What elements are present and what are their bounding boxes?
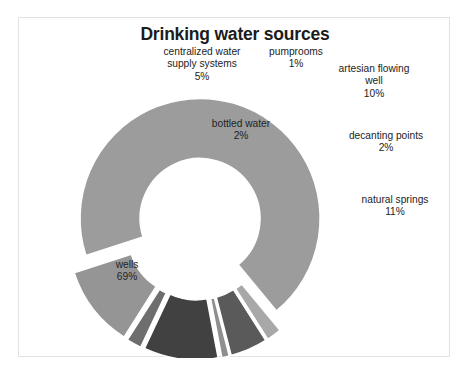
label-decanting-points: decanting points 2% bbox=[331, 130, 441, 155]
chart-title: Drinking water sources bbox=[19, 24, 451, 45]
label-pumprooms-line1: pumprooms bbox=[256, 46, 336, 58]
label-wells-line1: wells bbox=[97, 259, 157, 271]
label-artesian-flowing-well: artesian flowing well 10% bbox=[319, 63, 429, 100]
label-springs-value: 11% bbox=[343, 206, 447, 218]
label-springs-line1: natural springs bbox=[343, 194, 447, 206]
label-bottled-value: 2% bbox=[195, 130, 287, 142]
label-natural-springs: natural springs 11% bbox=[343, 194, 447, 219]
label-decanting-value: 2% bbox=[331, 142, 441, 154]
label-centralized-line2: supply systems bbox=[147, 58, 257, 70]
label-artesian-value: 10% bbox=[319, 88, 429, 100]
label-artesian-line1: artesian flowing bbox=[319, 63, 429, 75]
label-centralized-line1: centralized water bbox=[147, 46, 257, 58]
label-bottled-water: bottled water 2% bbox=[195, 118, 287, 143]
label-wells-value: 69% bbox=[97, 271, 157, 283]
label-centralized-value: 5% bbox=[147, 71, 257, 83]
label-decanting-line1: decanting points bbox=[331, 130, 441, 142]
label-artesian-line2: well bbox=[319, 75, 429, 87]
label-centralized-water-supply-systems: centralized water supply systems 5% bbox=[147, 46, 257, 83]
label-wells: wells 69% bbox=[97, 259, 157, 284]
chart-frame: Drinking water sources centralized water… bbox=[18, 17, 450, 357]
label-bottled-line1: bottled water bbox=[195, 118, 287, 130]
